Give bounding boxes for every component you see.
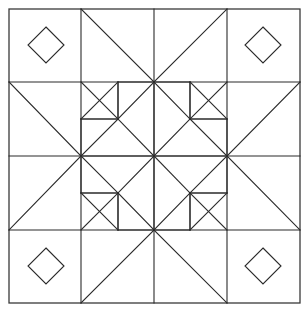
geometric-pattern-figure bbox=[0, 0, 307, 312]
figure-canvas: Geometric quilt block line drawing Symme… bbox=[0, 0, 307, 312]
diamond-bottom-right bbox=[245, 248, 281, 284]
star-arm-ne bbox=[154, 119, 190, 156]
diamond-bottom-left bbox=[28, 248, 64, 284]
diamond-top-right bbox=[245, 27, 281, 63]
star-arm-se bbox=[154, 156, 190, 193]
star-arm-sw bbox=[118, 156, 154, 193]
star-arm-nw bbox=[118, 119, 154, 156]
diamond-top-left bbox=[28, 27, 64, 63]
